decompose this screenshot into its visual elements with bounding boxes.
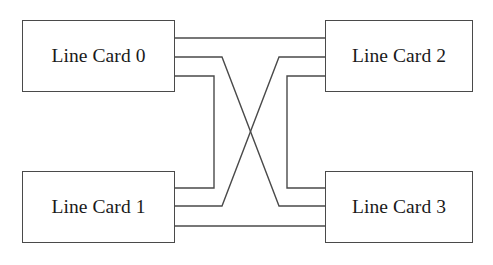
node-label-line-card-1: Line Card 1 [51, 197, 145, 217]
node-line-card-2[interactable]: Line Card 2 [325, 20, 473, 92]
link-lc0-lc1 [175, 76, 214, 188]
node-line-card-0[interactable]: Line Card 0 [22, 20, 175, 92]
node-label-line-card-2: Line Card 2 [352, 46, 446, 66]
node-label-line-card-0: Line Card 0 [51, 46, 145, 66]
link-lc2-lc3 [287, 76, 325, 188]
node-line-card-1[interactable]: Line Card 1 [22, 171, 175, 243]
node-line-card-3[interactable]: Line Card 3 [325, 171, 473, 243]
line-card-mesh-diagram: Line Card 0 Line Card 2 Line Card 1 Line… [0, 0, 493, 265]
link-lc1-lc2 [175, 57, 325, 206]
node-label-line-card-3: Line Card 3 [352, 197, 446, 217]
